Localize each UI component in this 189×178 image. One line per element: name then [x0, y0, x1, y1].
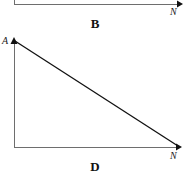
panel-d-data-line [15, 41, 178, 146]
panel-d-graphics [0, 0, 189, 178]
panel-d-caption: D [74, 160, 116, 174]
figure-canvas: N B A N D [0, 0, 189, 178]
panel-d-y-axis-label: A [2, 35, 8, 46]
panel-d-x-axis-label: N [170, 150, 177, 161]
panel-d-y-axis-arrowhead [11, 37, 18, 44]
